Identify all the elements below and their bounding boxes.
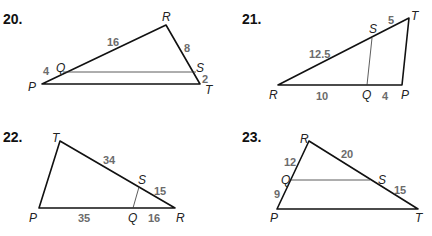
vertex-p: P <box>270 211 278 225</box>
length-qr: 16 <box>148 212 160 224</box>
vertex-q: Q <box>362 88 371 102</box>
problem-21: 21. R S T Q P 12.5 5 10 4 <box>242 9 420 102</box>
triangle-prt <box>42 25 200 84</box>
vertex-p: P <box>401 88 409 102</box>
length-st: 5 <box>388 14 394 26</box>
vertex-t: T <box>415 211 424 225</box>
vertex-r: R <box>300 132 309 146</box>
length-pq: 35 <box>78 212 90 224</box>
vertex-q: Q <box>281 173 290 187</box>
length-st: 2 <box>202 73 208 85</box>
problem-22: 22. T S P Q R 34 15 35 16 <box>3 129 185 225</box>
problem-number: 22. <box>3 129 22 145</box>
length-rs: 20 <box>341 148 353 160</box>
length-rq: 10 <box>316 90 328 102</box>
length-st: 15 <box>394 184 406 196</box>
vertex-t: T <box>205 83 214 97</box>
vertex-s: S <box>378 173 386 187</box>
segment-sq <box>133 187 139 208</box>
length-rq: 12 <box>284 156 296 168</box>
problem-number: 21. <box>242 11 261 27</box>
triangle-rtp <box>278 18 409 85</box>
vertex-q: Q <box>56 61 65 75</box>
length-qp: 9 <box>274 188 280 200</box>
vertex-s: S <box>138 173 146 187</box>
length-qp: 4 <box>382 90 389 102</box>
triangle-exercises: 20. R Q S P T 16 8 4 2 21. R S T Q P 12.… <box>0 0 432 236</box>
length-qp: 4 <box>43 65 50 77</box>
problem-20: 20. R Q S P T 16 8 4 2 <box>3 10 214 97</box>
length-sr: 15 <box>154 185 166 197</box>
problem-number: 20. <box>3 11 22 27</box>
vertex-q: Q <box>128 211 137 225</box>
vertex-p: P <box>29 211 37 225</box>
problem-23: 23. R Q S P T 12 20 9 15 <box>242 129 424 225</box>
vertex-r: R <box>176 211 185 225</box>
length-ts: 34 <box>103 154 116 166</box>
length-rq: 16 <box>107 36 119 48</box>
vertex-r: R <box>269 88 278 102</box>
length-rs: 12.5 <box>309 48 330 60</box>
vertex-p: P <box>28 80 36 94</box>
vertex-t: T <box>411 9 420 23</box>
vertex-s: S <box>369 22 377 36</box>
problem-number: 23. <box>242 129 261 145</box>
segment-sq <box>367 38 372 85</box>
vertex-r: R <box>162 10 171 24</box>
triangle-tpr <box>39 141 175 208</box>
length-rs: 8 <box>184 42 190 54</box>
